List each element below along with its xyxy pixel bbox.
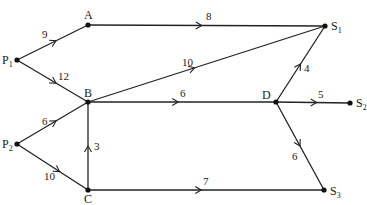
node-dot-icon: [14, 141, 19, 146]
edge-weight-label: 6: [292, 150, 298, 162]
node-label: S3: [330, 184, 341, 200]
node-label: S2: [356, 96, 367, 112]
node-label: P1: [2, 53, 13, 69]
node-P2: P2: [2, 137, 20, 153]
node-S1: S1: [322, 19, 341, 35]
edge-A-S1: 8: [88, 10, 325, 29]
node-S3: S3: [321, 184, 340, 200]
edge-D-S3: 6: [276, 102, 324, 190]
edge-weight-label: 5: [318, 88, 324, 100]
node-label: B: [84, 86, 92, 100]
edge-weight-label: 7: [203, 175, 209, 187]
nodes-layer: P1ABP2CS1DS2S3: [2, 8, 367, 205]
edge-weight-label: 3: [94, 140, 100, 152]
edge-weight-label: 8: [206, 10, 212, 22]
edge-line: [17, 60, 88, 102]
edge-line: [17, 144, 88, 190]
edge-line: [276, 102, 350, 103]
edge-weight-label: 12: [58, 70, 69, 82]
edge-weight-label: 10: [182, 56, 194, 68]
node-label: C: [84, 192, 92, 205]
node-dot-icon: [85, 22, 90, 27]
edge-P2-C: 10: [17, 144, 88, 190]
edge-weight-label: 6: [180, 87, 186, 99]
edge-P1-A: 9: [17, 25, 88, 60]
edge-P1-B: 12: [17, 60, 88, 102]
edge-line: [17, 102, 88, 144]
edge-C-S3: 7: [88, 175, 324, 194]
node-dot-icon: [347, 100, 352, 105]
edge-line: [88, 26, 325, 102]
edge-weight-label: 9: [42, 28, 48, 40]
node-S2: S2: [347, 96, 366, 112]
edges-layer: 912810661037456: [17, 10, 350, 194]
edge-B-S1: 10: [88, 26, 325, 102]
edge-weight-label: 10: [44, 170, 56, 182]
edge-C-B: 3: [85, 102, 101, 190]
edge-P2-B: 6: [17, 102, 88, 144]
node-dot-icon: [14, 57, 19, 62]
edge-line: [17, 25, 88, 60]
node-dot-icon: [321, 187, 326, 192]
node-label: A: [84, 8, 93, 22]
node-P1: P1: [2, 53, 20, 69]
flow-network-diagram: 912810661037456 P1ABP2CS1DS2S3: [0, 0, 367, 205]
node-dot-icon: [322, 23, 327, 28]
node-label: P2: [2, 137, 13, 153]
edge-line: [88, 25, 325, 26]
node-dot-icon: [273, 99, 278, 104]
edge-weight-label: 6: [42, 115, 48, 127]
edge-weight-label: 4: [304, 62, 310, 74]
node-dot-icon: [85, 99, 90, 104]
edge-B-D: 6: [88, 87, 276, 106]
node-label: D: [262, 88, 271, 102]
edge-D-S2: 5: [276, 88, 350, 106]
node-label: S1: [331, 19, 342, 35]
